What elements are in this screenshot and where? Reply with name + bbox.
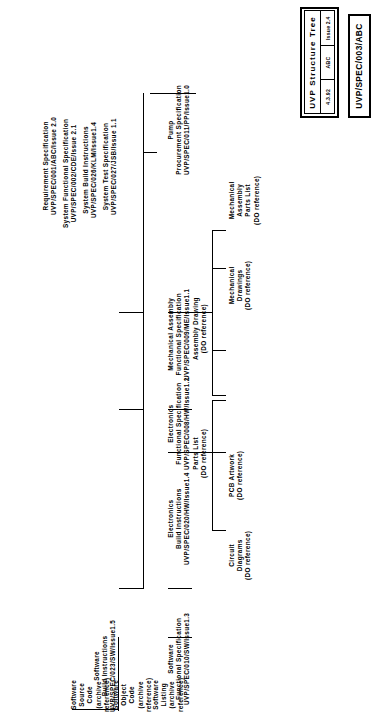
elec-func-line2: Functional Specification [175, 377, 183, 470]
title-block-inner: UVP Structure Tree 4.3.92 ABC Issue 2.4 [304, 11, 336, 115]
elec-build-line2: Build Instructions [175, 472, 183, 565]
node-pump-procurement-specification[interactable]: Pump Procurement Specification UVP/SPEC/… [167, 85, 192, 175]
sw-source-line2: Source [78, 678, 86, 712]
circuit-diagrams-line3: (DO reference) [244, 531, 252, 580]
branch-stub-mechanical [119, 312, 144, 313]
mech-assembly-line3: UVP/SPEC/009/ME/Issue1.1 [183, 288, 191, 380]
connector-mech-drawings [212, 268, 226, 269]
mech-parts-line1: Mechanical [228, 176, 236, 225]
pcb-artwork-line2: (DO reference) [236, 451, 244, 500]
parts-list-line1: Parts List [192, 429, 200, 478]
title-block-outer: UVP Structure Tree 4.3.92 ABC Issue 2.4 [300, 7, 339, 118]
pcb-artwork-line1: PCB Artwork [228, 451, 236, 500]
node-mechanical-assembly-functional-specification[interactable]: Mechanical Assembly Functional Specifica… [167, 288, 192, 380]
node-electronics-functional-specification[interactable]: Electronics Functional Specification UVP… [167, 377, 192, 470]
system-test-spec-line2: UVP/SPEC/027/JSB/Issue 1.1 [110, 118, 118, 215]
sw-listing-line2: Listing [160, 678, 168, 712]
sw-source-line5: reference) [103, 678, 111, 712]
node-mechanical-drawings[interactable]: Mechanical Drawings (DO reference) [228, 261, 253, 310]
sw-source-line4: (archive [95, 678, 103, 712]
requirement-spec-line1: Requirement Specification [42, 117, 50, 215]
node-software-listing[interactable]: Software Listing (archive reference) [152, 678, 185, 712]
system-build-instructions-line2: UVP/SPEC/026/KLM/Issue1.4 [90, 122, 98, 218]
node-requirement-specification[interactable]: Requirement Specification UVP/SPEC/001/A… [42, 117, 58, 215]
document-number-block: UVP/SPEC/003/ABC [348, 14, 371, 118]
connector-pcb-artwork [212, 452, 226, 453]
sw-source-line1: Software [70, 678, 78, 712]
node-software-source-code[interactable]: Software Source Code (archive reference) [70, 678, 111, 712]
connector-sw-leaf-source [72, 709, 119, 710]
node-pcb-artwork[interactable]: PCB Artwork (DO reference) [228, 451, 244, 500]
connector-circuit-diagrams [212, 530, 226, 531]
elec-func-line3: UVP/SPEC/008/HW/Issue1.2 [183, 377, 191, 470]
connector-parts-list [212, 400, 226, 401]
requirement-spec-line2: UVP/SPEC/001/ABC/Issue 2.0 [50, 117, 58, 215]
spine-system-functional [143, 93, 144, 589]
spine-software-leaves [118, 637, 119, 711]
branch-stub-pump [143, 152, 157, 153]
node-system-functional-specification[interactable]: System Functional Specification UVP/SPEC… [62, 119, 78, 228]
node-circuit-diagrams[interactable]: Circuit Diagrams (DO reference) [228, 531, 253, 580]
node-parts-list[interactable]: Parts List (DO reference) [192, 429, 208, 478]
title-block-heading: UVP Structure Tree [305, 12, 322, 114]
circuit-diagrams-line2: Diagrams [236, 531, 244, 580]
sw-listing-line1: Software [152, 678, 160, 712]
node-system-test-specification[interactable]: System Test Specification UVP/SPEC/027/J… [102, 118, 118, 215]
connector-mech-parts-list [212, 230, 226, 231]
sw-object-line3: Code [128, 678, 136, 712]
mech-parts-line3: Parts List [244, 176, 252, 225]
elec-build-line1: Electronics [167, 472, 175, 565]
mech-drawings-line3: (DO reference) [244, 261, 252, 310]
mech-assembly-line1: Mechanical Assembly [167, 288, 175, 380]
sw-object-line2: Object [120, 678, 128, 712]
system-test-spec-line1: System Test Specification [102, 118, 110, 215]
node-mechanical-assembly-parts-list[interactable]: Mechanical Assembly Parts List (DO refer… [228, 176, 261, 225]
title-block-cell-date: 4.3.92 [321, 79, 334, 113]
node-electronics-build-instructions[interactable]: Electronics Build Instructions UVP/SPEC/… [167, 472, 192, 565]
title-block: UVP Structure Tree 4.3.92 ABC Issue 2.4 [300, 7, 339, 118]
title-block-cell-issue: Issue 2.4 [321, 12, 334, 45]
sw-source-line3: Code [86, 678, 94, 712]
system-functional-spec-line2: UVP/SPEC/002/CDE/Issue 2.1 [70, 119, 78, 228]
connector-mech-mid [212, 350, 226, 351]
branch-stub-software [119, 588, 144, 589]
sw-object-line4: (archive [137, 678, 145, 712]
sw-listing-line4: reference) [177, 678, 185, 712]
title-block-cell-author: ABC [321, 45, 334, 79]
circuit-diagrams-line1: Circuit [228, 531, 236, 580]
connector-mech-bottom [212, 395, 226, 396]
mech-drawings-line1: Mechanical [228, 261, 236, 310]
mech-drawings-line2: Drawings [236, 261, 244, 310]
system-build-instructions-line1: System Build Instructions [82, 122, 90, 218]
elec-build-line3: UVP/SPEC/020/HW/Issue1.4 [183, 472, 191, 565]
system-functional-spec-line1: System Functional Specification [62, 119, 70, 228]
pump-line2: Procurement Specification [175, 85, 183, 175]
assembly-drawing-line1: Assembly Drawing [192, 297, 200, 360]
elec-func-line1: Electronics [167, 377, 175, 470]
mech-parts-line4: (DO reference) [253, 176, 261, 225]
node-assembly-drawing[interactable]: Assembly Drawing (DO reference) [192, 297, 208, 360]
title-block-row: 4.3.92 ABC Issue 2.4 [321, 12, 334, 114]
mech-parts-line2: Assembly [236, 176, 244, 225]
sw-listing-line3: (archive [168, 678, 176, 712]
pump-line3: UVP/SPEC/011/PP/Issue1.0 [183, 85, 191, 175]
pump-line1: Pump [167, 85, 175, 175]
branch-stub-electronics [119, 409, 144, 410]
spine-electronics-sub [212, 400, 213, 530]
parts-list-line2: (DO reference) [200, 429, 208, 478]
assembly-drawing-line2: (DO reference) [200, 297, 208, 360]
node-system-build-instructions[interactable]: System Build Instructions UVP/SPEC/026/K… [82, 122, 98, 218]
mech-assembly-line2: Functional Specification [175, 288, 183, 380]
connector-sw-func-stub [168, 588, 192, 589]
